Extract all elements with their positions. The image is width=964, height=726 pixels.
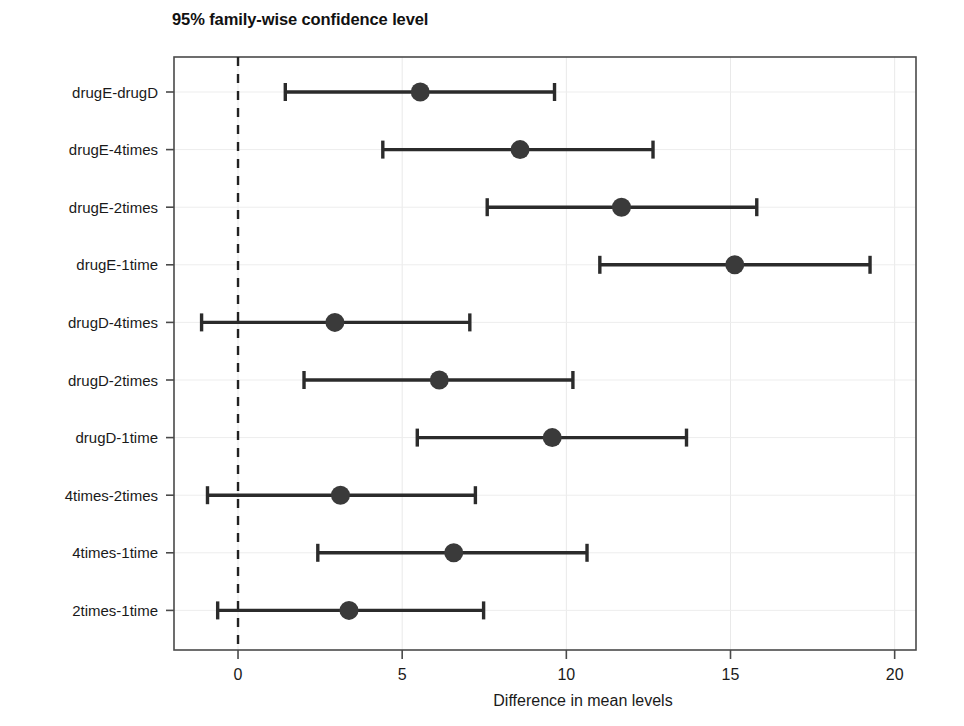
y-axis-tick-label: drugD-4times: [68, 314, 158, 331]
point-estimate-marker: [543, 428, 562, 447]
point-estimate-marker: [444, 543, 463, 562]
confidence-interval-plot: 95% family-wise confidence level drugE-d…: [0, 0, 964, 726]
point-estimate-marker: [725, 255, 744, 274]
gridlines-group: [174, 57, 916, 650]
x-axis-title: Difference in mean levels: [493, 692, 672, 709]
y-axis-tick-label: 2times-1time: [72, 602, 158, 619]
point-estimate-marker: [511, 140, 530, 159]
interval-row: [417, 428, 686, 447]
point-estimate-marker: [612, 198, 631, 217]
y-axis-tick-label: 4times-2times: [65, 487, 158, 504]
point-estimate-marker: [331, 486, 350, 505]
point-estimate-marker: [325, 313, 344, 332]
interval-row: [318, 543, 587, 562]
x-axis-tick-label: 15: [722, 666, 740, 683]
x-axis-group: 05101520: [234, 650, 904, 683]
interval-row: [218, 601, 484, 620]
y-axis-tick-label: drugE-2times: [69, 199, 158, 216]
interval-row: [207, 486, 475, 505]
plot-frame: [174, 57, 916, 650]
plot-canvas: drugE-drugDdrugE-4timesdrugE-2timesdrugE…: [0, 0, 964, 726]
interval-series-group: [202, 83, 870, 620]
interval-row: [285, 83, 554, 102]
interval-row: [304, 371, 573, 390]
x-axis-tick-label: 10: [557, 666, 575, 683]
y-axis-tick-label: drugD-1time: [75, 429, 158, 446]
point-estimate-marker: [339, 601, 358, 620]
interval-row: [202, 313, 470, 332]
interval-row: [383, 140, 653, 159]
x-axis-tick-label: 20: [886, 666, 904, 683]
y-axis-tick-label: drugE-4times: [69, 141, 158, 158]
interval-row: [600, 255, 870, 274]
y-axis-tick-label: 4times-1time: [72, 544, 158, 561]
plot-border: [174, 57, 916, 650]
x-axis-tick-label: 0: [234, 666, 243, 683]
y-axis-tick-label: drugD-2times: [68, 372, 158, 389]
point-estimate-marker: [430, 371, 449, 390]
point-estimate-marker: [411, 83, 430, 102]
x-axis-tick-label: 5: [398, 666, 407, 683]
y-axis-tick-label: drugE-drugD: [72, 84, 158, 101]
y-axis-group: drugE-drugDdrugE-4timesdrugE-2timesdrugE…: [65, 84, 174, 619]
interval-row: [487, 198, 757, 217]
y-axis-tick-label: drugE-1time: [76, 256, 158, 273]
